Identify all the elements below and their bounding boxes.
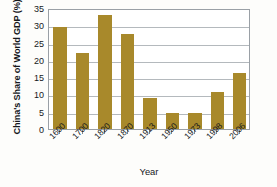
y-tick-label-20: 20 — [23, 56, 44, 65]
bar-1820 — [98, 15, 111, 129]
y-tick-label-15: 15 — [23, 74, 44, 83]
y-tick-label-25: 25 — [23, 39, 44, 48]
bar-chart-figure: China's Share of World GDP (%) 051015202… — [0, 0, 277, 187]
y-axis-tick-labels: 05101520253035 — [23, 9, 44, 130]
y-tick-label-10: 10 — [23, 91, 44, 100]
x-axis-title: Year — [48, 166, 250, 177]
y-tick-label-5: 5 — [23, 108, 44, 117]
plot-area — [48, 9, 250, 130]
y-tick-label-30: 30 — [23, 22, 44, 31]
y-tick-label-0: 0 — [23, 126, 44, 135]
bars-group — [49, 10, 249, 129]
y-tick-label-35: 35 — [23, 5, 44, 14]
bar-1600 — [53, 27, 66, 129]
